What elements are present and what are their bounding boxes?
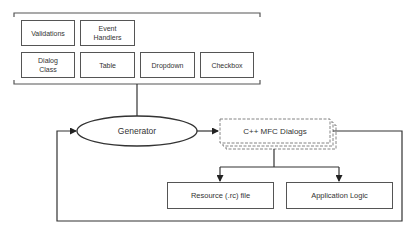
artifact-resource-file: Resource (.rc) file — [167, 182, 274, 209]
artifact-application-logic: Application Logic — [286, 182, 393, 209]
component-dropdown: Dropdown — [140, 52, 195, 78]
component-event-handlers: Event Handlers — [80, 20, 135, 46]
component-table: Table — [80, 52, 135, 78]
dialogs-label: C++ MFC Dialogs — [220, 119, 330, 143]
component-checkbox: Checkbox — [200, 52, 254, 78]
component-dialog-class: Dialog Class — [21, 52, 75, 78]
generator-label: Generator — [77, 116, 197, 146]
component-validations: Validations — [21, 20, 75, 46]
